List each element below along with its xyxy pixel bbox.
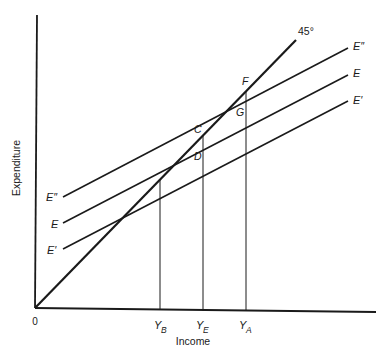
x-axis <box>35 308 376 312</box>
tick-yb: Y B <box>154 319 167 335</box>
svg-text:B: B <box>161 325 167 335</box>
svg-text:E: E <box>203 325 209 335</box>
e-double-prime-left-label: E″ <box>46 191 58 203</box>
y-axis-label: Expenditure <box>10 140 22 196</box>
e-right-label: E <box>353 67 361 79</box>
point-g-label: G <box>236 106 244 118</box>
forty-five-degree-line <box>35 40 296 308</box>
keynesian-cross-diagram: Expenditure Income 0 45° E″ E E′ E″ E E′… <box>0 0 391 362</box>
tick-ye: Y E <box>196 319 209 335</box>
point-c-label: C <box>194 123 202 135</box>
tick-ya: Y A <box>239 319 252 335</box>
origin-label: 0 <box>32 316 38 327</box>
svg-text:A: A <box>245 325 252 335</box>
point-f-label: F <box>242 75 249 87</box>
e-left-label: E <box>51 218 59 230</box>
e-prime-right-label: E′ <box>353 94 363 106</box>
point-d-label: D <box>194 150 202 162</box>
e-double-prime-right-label: E″ <box>353 40 365 52</box>
e-prime-left-label: E′ <box>47 244 57 256</box>
x-axis-label: Income <box>176 335 211 347</box>
y-axis <box>35 15 37 308</box>
forty-five-label: 45° <box>298 25 314 37</box>
e-line <box>63 75 348 223</box>
